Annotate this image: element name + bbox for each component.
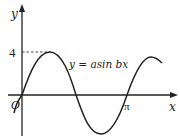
sine-graph: y x O π 4 y = asin bx [0,0,180,139]
origin-label: O [11,99,20,112]
y-axis-label: y [10,7,18,21]
x-axis-arrow-icon [170,92,178,98]
max-value-label: 4 [9,45,16,60]
pi-tick-label: π [124,100,130,112]
y-axis-arrow-icon [19,4,25,12]
equation-label: y = asin bx [68,58,128,70]
x-axis-label: x [169,100,176,114]
